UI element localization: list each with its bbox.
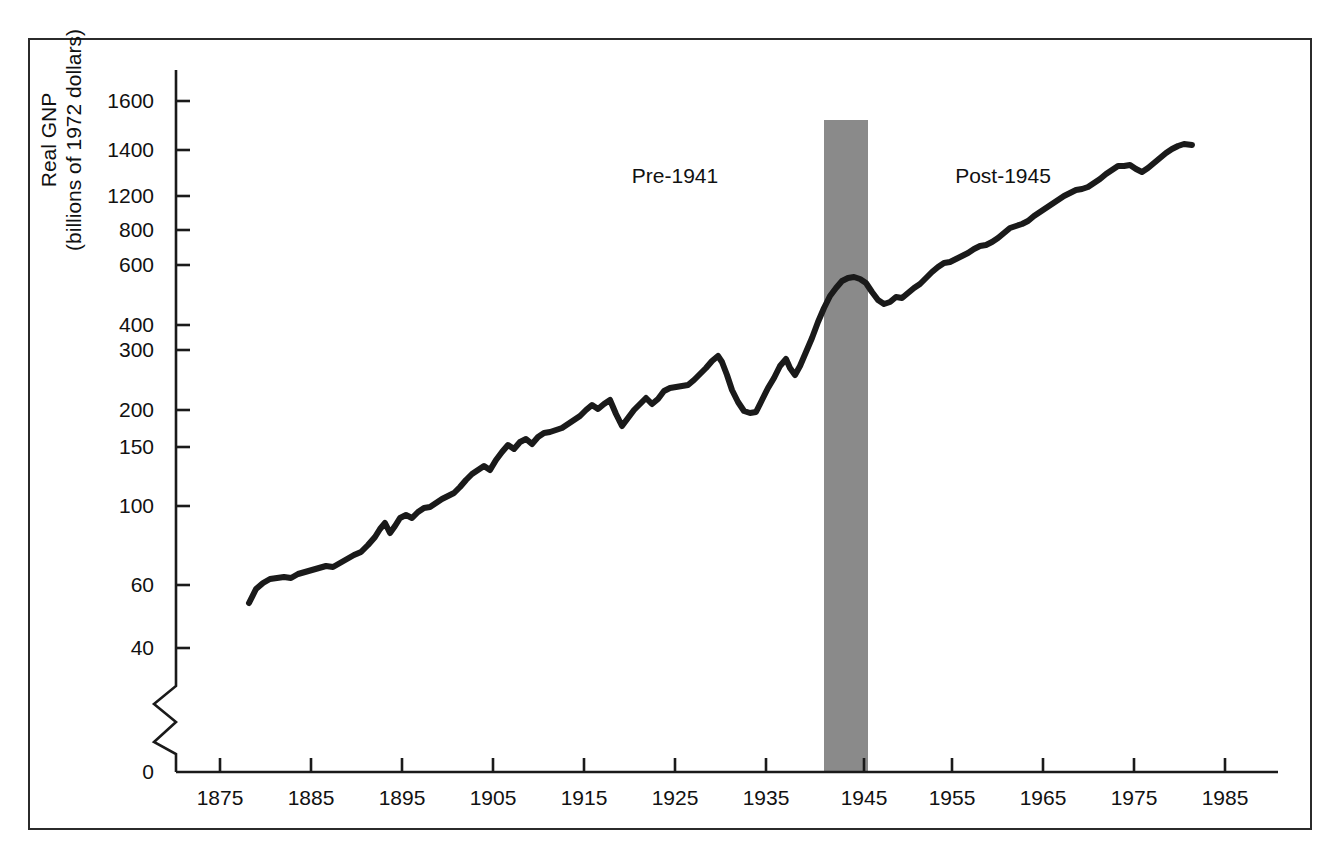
x-tick-label: 1965: [1020, 786, 1067, 810]
y-tick-label: 100: [60, 494, 154, 518]
y-tick-label: 1400: [60, 138, 154, 162]
real-gnp-line: [249, 144, 1192, 603]
x-tick-label: 1925: [652, 786, 699, 810]
y-tick-label: 600: [60, 253, 154, 277]
x-tick-label: 1915: [561, 786, 608, 810]
wwii-shaded-band: [824, 120, 868, 772]
tick-marks-group: [176, 101, 1225, 772]
x-tick-label: 1895: [379, 786, 426, 810]
x-tick-label: 1875: [197, 786, 244, 810]
y-tick-label: 200: [60, 398, 154, 422]
x-tick-label: 1975: [1111, 786, 1158, 810]
y-tick-label: 0: [60, 760, 154, 784]
y-tick-label: 1600: [60, 89, 154, 113]
y-tick-label: 40: [60, 636, 154, 660]
x-tick-label: 1905: [470, 786, 517, 810]
y-axis-line: [154, 70, 176, 772]
chart-plot-area: [0, 0, 1334, 845]
figure-container: Real GNP (billions of 1972 dollars) 1600…: [0, 0, 1334, 845]
x-tick-label: 1945: [841, 786, 888, 810]
y-tick-label: 1200: [60, 184, 154, 208]
chart-annotation: Pre-1941: [632, 164, 718, 188]
x-tick-label: 1935: [743, 786, 790, 810]
x-tick-label: 1985: [1202, 786, 1249, 810]
x-tick-label: 1955: [929, 786, 976, 810]
data-series-group: [249, 144, 1192, 603]
y-tick-label: 300: [60, 338, 154, 362]
y-tick-label: 60: [60, 573, 154, 597]
wwii-shaded-band-group: [824, 120, 868, 772]
chart-annotation: Post-1945: [955, 164, 1051, 188]
x-tick-label: 1885: [288, 786, 335, 810]
y-tick-label: 800: [60, 218, 154, 242]
y-tick-label: 150: [60, 435, 154, 459]
y-tick-label: 400: [60, 313, 154, 337]
y-axis-title-line1: Real GNP: [36, 10, 61, 270]
